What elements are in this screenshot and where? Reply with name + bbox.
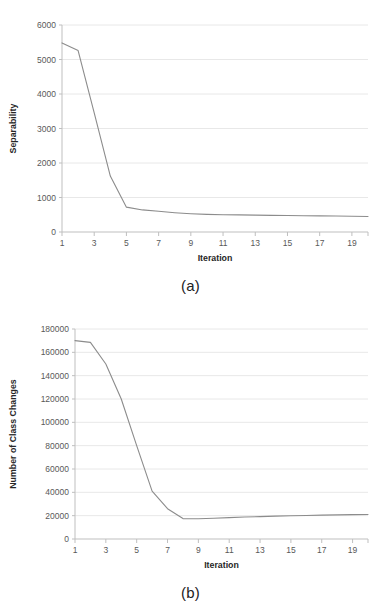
data-series-line <box>62 43 368 217</box>
x-axis-tick-label: 1 <box>73 545 78 555</box>
y-axis-tick-label: 160000 <box>41 347 70 357</box>
x-axis-tick-label: 19 <box>347 238 357 248</box>
x-axis-tick-label: 11 <box>225 545 234 555</box>
y-axis-title: Separability <box>8 103 18 153</box>
x-axis-title: Iteration <box>198 253 233 263</box>
y-axis-tick-label: 0 <box>51 227 56 237</box>
panel-caption-b: (b) <box>0 585 381 600</box>
x-axis-tick-label: 13 <box>255 545 265 555</box>
y-axis-title: Number of Class Changes <box>8 379 18 489</box>
y-axis-tick-label: 2000 <box>37 158 56 168</box>
class-changes-line-chart: 0200004000060000800001000001200001400001… <box>0 305 381 585</box>
x-axis-tick-label: 17 <box>315 238 325 248</box>
x-axis-title: Iteration <box>204 560 239 570</box>
y-axis-tick-label: 3000 <box>37 124 56 134</box>
y-axis-tick-label: 80000 <box>45 441 69 451</box>
figure-panel-b: 0200004000060000800001000001200001400001… <box>0 305 381 610</box>
figure-panel-a: 0100020003000400050006000135791113151719… <box>0 0 381 305</box>
x-axis-tick-label: 7 <box>156 238 161 248</box>
panel-caption-a: (a) <box>0 278 381 293</box>
x-axis-tick-label: 19 <box>348 545 358 555</box>
x-axis-tick-label: 5 <box>124 238 129 248</box>
y-axis-tick-label: 0 <box>64 534 69 544</box>
y-axis-tick-label: 4000 <box>37 89 56 99</box>
x-axis-tick-label: 9 <box>196 545 201 555</box>
figure-page: 0100020003000400050006000135791113151719… <box>0 0 381 610</box>
x-axis-tick-label: 3 <box>92 238 97 248</box>
y-axis-tick-label: 40000 <box>45 487 69 497</box>
x-axis-tick-label: 1 <box>60 238 65 248</box>
y-axis-tick-label: 60000 <box>45 464 69 474</box>
y-axis-tick-label: 1000 <box>37 193 56 203</box>
x-axis-tick-label: 15 <box>286 545 296 555</box>
separability-line-chart: 0100020003000400050006000135791113151719… <box>0 0 381 278</box>
y-axis-tick-label: 5000 <box>37 55 56 65</box>
x-axis-tick-label: 7 <box>165 545 170 555</box>
x-axis-tick-label: 17 <box>317 545 327 555</box>
y-axis-tick-label: 120000 <box>41 394 70 404</box>
y-axis-tick-label: 140000 <box>41 371 70 381</box>
x-axis-tick-label: 11 <box>219 238 228 248</box>
y-axis-tick-label: 20000 <box>45 511 69 521</box>
y-axis-tick-label: 6000 <box>37 20 56 30</box>
x-axis-tick-label: 5 <box>134 545 139 555</box>
x-axis-tick-label: 9 <box>188 238 193 248</box>
y-axis-tick-label: 100000 <box>41 417 70 427</box>
x-axis-tick-label: 13 <box>251 238 261 248</box>
x-axis-tick-label: 15 <box>283 238 293 248</box>
y-axis-tick-label: 180000 <box>41 324 70 334</box>
x-axis-tick-label: 3 <box>103 545 108 555</box>
